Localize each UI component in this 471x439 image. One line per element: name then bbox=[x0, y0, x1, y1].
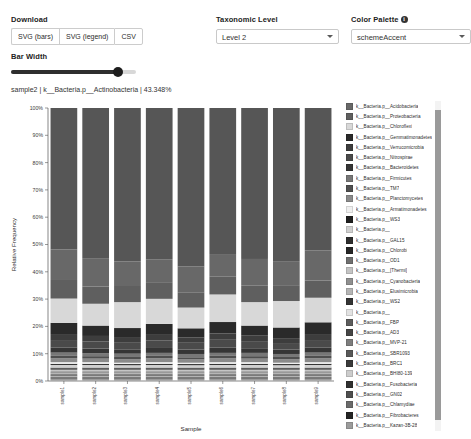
bar-segment[interactable] bbox=[114, 377, 141, 378]
bar-segment[interactable] bbox=[241, 353, 268, 356]
bar-segment[interactable] bbox=[51, 378, 78, 379]
bar-segment[interactable] bbox=[146, 362, 173, 364]
bar-segment[interactable] bbox=[82, 108, 109, 258]
bar-segment[interactable] bbox=[305, 251, 332, 281]
bar-segment[interactable] bbox=[82, 304, 109, 326]
color-palette-select[interactable]: schemeAccent bbox=[351, 29, 471, 44]
bar-segment[interactable] bbox=[209, 377, 236, 378]
bar-segment[interactable] bbox=[146, 374, 173, 375]
bar-segment[interactable] bbox=[114, 374, 141, 375]
bar-segment[interactable] bbox=[209, 370, 236, 371]
legend-item[interactable]: k__Bacteria.p__Armatimonadetes bbox=[341, 204, 459, 214]
bar-segment[interactable] bbox=[146, 378, 173, 379]
legend-item[interactable]: k__Bacteria.p__BHI80-139 bbox=[341, 369, 459, 379]
bar-segment[interactable] bbox=[273, 378, 300, 379]
bar-segment[interactable] bbox=[114, 359, 141, 363]
bar-segment[interactable] bbox=[178, 357, 205, 359]
bar-segment[interactable] bbox=[178, 368, 205, 369]
bar-segment[interactable] bbox=[146, 353, 173, 356]
bar-segment[interactable] bbox=[305, 368, 332, 369]
bar-segment[interactable] bbox=[209, 364, 236, 365]
bar-segment[interactable] bbox=[51, 108, 78, 249]
bar-segment[interactable] bbox=[178, 363, 205, 364]
bar-segment[interactable] bbox=[273, 359, 300, 363]
chart-svg[interactable]: 0%10%20%30%40%50%60%70%80%90%100%Relativ… bbox=[0, 100, 340, 439]
bar-segment[interactable] bbox=[241, 378, 268, 379]
bar-segment[interactable] bbox=[305, 362, 332, 364]
bar-segment[interactable] bbox=[82, 378, 109, 379]
bar-segment[interactable] bbox=[114, 338, 141, 343]
bar-segment[interactable] bbox=[146, 365, 173, 368]
bar-segment[interactable] bbox=[273, 350, 300, 354]
bar-segment[interactable] bbox=[146, 299, 173, 324]
bar-segment[interactable] bbox=[241, 302, 268, 325]
bar-segment[interactable] bbox=[146, 369, 173, 370]
bar-segment[interactable] bbox=[305, 378, 332, 379]
bar-segment[interactable] bbox=[178, 370, 205, 371]
legend-item[interactable]: k__Bacteria.p__Proteobacteria bbox=[341, 111, 459, 121]
bar-segment[interactable] bbox=[82, 370, 109, 371]
bar-segment[interactable] bbox=[273, 364, 300, 365]
bar-segment[interactable] bbox=[82, 365, 109, 368]
bar-segment[interactable] bbox=[82, 368, 109, 369]
bar-segment[interactable] bbox=[178, 377, 205, 378]
bar-segment[interactable] bbox=[305, 372, 332, 373]
bar-segment[interactable] bbox=[178, 369, 205, 370]
bar-segment[interactable] bbox=[146, 376, 173, 377]
legend-item[interactable]: k__Bacteria.p__WS6 bbox=[341, 431, 459, 432]
bar-segment[interactable] bbox=[273, 378, 300, 379]
bar-segment[interactable] bbox=[82, 380, 109, 381]
bar-segment[interactable] bbox=[273, 373, 300, 374]
bar-segment[interactable] bbox=[209, 365, 236, 368]
bar-segment[interactable] bbox=[51, 362, 78, 364]
bar-segment[interactable] bbox=[305, 364, 332, 365]
bar-segment[interactable] bbox=[114, 343, 141, 350]
bar-width-slider[interactable] bbox=[11, 66, 136, 78]
bar-segment[interactable] bbox=[114, 370, 141, 371]
legend-item[interactable]: k__Bacteria.p__Verrucomicrobia bbox=[341, 142, 459, 152]
bar-segment[interactable] bbox=[146, 368, 173, 369]
bar-segment[interactable] bbox=[82, 372, 109, 373]
bar-segment[interactable] bbox=[51, 340, 78, 348]
bar-segment[interactable] bbox=[241, 379, 268, 380]
bar-segment[interactable] bbox=[305, 281, 332, 298]
bar-segment[interactable] bbox=[178, 372, 205, 373]
bar-segment[interactable] bbox=[114, 373, 141, 374]
legend-item[interactable]: k__Bacteria.p__ bbox=[341, 225, 459, 235]
bar-segment[interactable] bbox=[241, 369, 268, 370]
bar-segment[interactable] bbox=[273, 108, 300, 261]
legend-item[interactable]: k__Bacteria.p__BRC1 bbox=[341, 358, 459, 368]
bar-segment[interactable] bbox=[305, 374, 332, 375]
bar-segment[interactable] bbox=[146, 371, 173, 372]
bar-segment[interactable] bbox=[146, 370, 173, 371]
bar-segment[interactable] bbox=[273, 368, 300, 369]
bar-segment[interactable] bbox=[305, 373, 332, 374]
bar-segment[interactable] bbox=[114, 371, 141, 372]
bar-segment[interactable] bbox=[273, 365, 300, 367]
bar-segment[interactable] bbox=[273, 373, 300, 374]
bar-segment[interactable] bbox=[209, 369, 236, 370]
bar-segment[interactable] bbox=[305, 322, 332, 334]
bar-segment[interactable] bbox=[241, 376, 268, 377]
legend-item[interactable]: k__Bacteria.p__Planctomycetes bbox=[341, 194, 459, 204]
bar-segment[interactable] bbox=[273, 372, 300, 373]
bar-segment[interactable] bbox=[178, 266, 205, 292]
bar-segment[interactable] bbox=[273, 376, 300, 377]
legend-item[interactable]: k__Bacteria.p__AD3 bbox=[341, 328, 459, 338]
legend-item[interactable]: k__Bacteria.p__Gemmatimonadetes bbox=[341, 132, 459, 142]
bar-segment[interactable] bbox=[146, 372, 173, 373]
bar-segment[interactable] bbox=[82, 341, 109, 348]
legend-item[interactable]: k__Bacteria.p__Firmicutes bbox=[341, 173, 459, 183]
bar-segment[interactable] bbox=[82, 326, 109, 336]
bar-segment[interactable] bbox=[51, 348, 78, 353]
bar-segment[interactable] bbox=[273, 368, 300, 369]
bar-segment[interactable] bbox=[51, 280, 78, 299]
bar-segment[interactable] bbox=[209, 378, 236, 379]
bar-segment[interactable] bbox=[82, 374, 109, 375]
bar-segment[interactable] bbox=[305, 356, 332, 358]
bar-segment[interactable] bbox=[146, 259, 173, 282]
bar-segment[interactable] bbox=[51, 249, 78, 280]
bar-segment[interactable] bbox=[82, 364, 109, 365]
bar-segment[interactable] bbox=[82, 380, 109, 381]
bar-segment[interactable] bbox=[82, 377, 109, 378]
